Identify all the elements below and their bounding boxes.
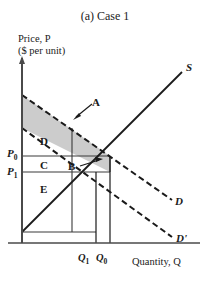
- region-label-e: E: [40, 184, 47, 196]
- x-axis-label: Quantity, Q: [132, 256, 181, 267]
- quantity-tick-q1-sub: 1: [86, 257, 90, 266]
- region-label-b: B: [68, 161, 75, 173]
- price-tick-p1: P1: [7, 166, 17, 178]
- figure-container: (a) Case 1 Price, P ($ per unit) Quantit…: [0, 0, 210, 289]
- price-tick-p1-base: P: [7, 165, 14, 177]
- y-axis-label-text: Price, P: [18, 33, 51, 44]
- quantity-tick-q0-sub: 0: [104, 257, 108, 266]
- demand-curve-label: D: [175, 196, 183, 208]
- region-label-c: C: [40, 160, 48, 172]
- region-label-d: D: [40, 136, 48, 148]
- price-axis-arrow: [19, 56, 25, 64]
- price-tick-p0-sub: 0: [14, 153, 18, 162]
- quantity-tick-q0-base: Q: [96, 252, 104, 263]
- y-axis-label-line2: ($ per unit): [18, 45, 65, 56]
- quantity-tick-q1: Q1: [78, 252, 89, 263]
- figure-title: (a) Case 1: [0, 10, 210, 23]
- demand-shifted-curve-label: D': [176, 233, 187, 245]
- supply-curve-label: S: [186, 62, 192, 74]
- quantity-tick-q0: Q0: [96, 252, 107, 263]
- price-tick-p0-base: P: [7, 147, 14, 159]
- price-tick-p1-sub: 1: [14, 171, 18, 180]
- y-axis-label-line1: Price, P: [18, 33, 51, 44]
- quantity-tick-q1-base: Q: [78, 252, 86, 263]
- region-label-a: A: [92, 97, 100, 109]
- price-tick-p0: P0: [7, 148, 17, 160]
- supply-curve-s: [22, 72, 182, 232]
